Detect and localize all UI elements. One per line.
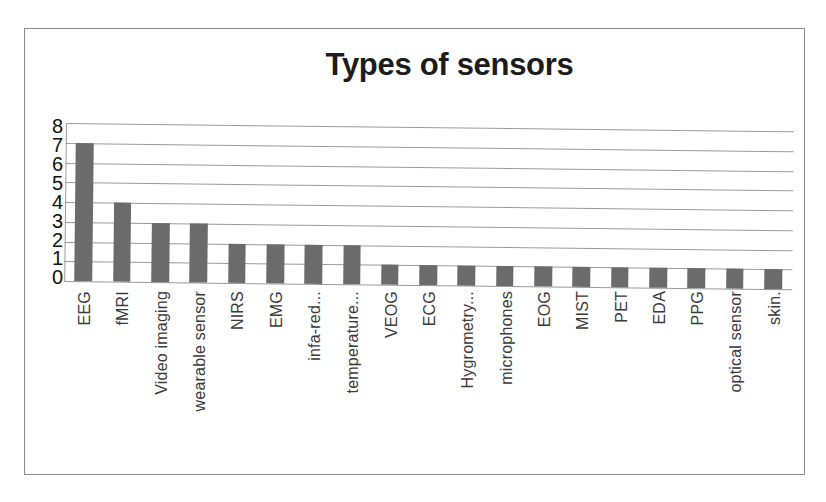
bar-slot [256,125,296,283]
bar-slot [409,127,449,285]
y-axis-tick-label: 8 [52,117,63,136]
x-axis-tick-label: infa-red... [306,291,324,361]
bar [458,266,476,286]
y-axis-tick-label: 3 [52,211,63,230]
x-axis-tick-label: PPG [689,291,707,325]
x-axis-tick-label: optical sensor [727,291,745,393]
x-label-slot: PPG [679,287,717,467]
x-axis-tick-label: EOG [536,291,554,327]
x-axis-tick-label: PET [613,291,631,323]
bar [649,268,667,288]
bar-slot [601,129,641,287]
x-axis-tick-label: microphones [498,291,516,385]
x-label-slot: fMRI [104,287,142,467]
bar-slot [639,130,679,288]
x-axis-tick-label: EMG [268,291,286,328]
x-axis-tick-label: EDA [651,291,669,325]
bar-slot [141,124,181,282]
x-axis-tick-label: skin. [766,291,784,325]
bar-slot [64,123,104,281]
x-label-slot: MIST [564,287,602,467]
bar [266,244,284,284]
x-label-slot: ECG [411,287,449,467]
bar-slot [447,127,487,285]
bar-slot [486,128,526,286]
x-label-slot: optical sensor [717,287,755,467]
bar-slot [179,124,219,282]
y-axis-tick-label: 5 [52,174,63,193]
x-axis-tick-label: MIST [574,291,592,330]
bar-slot [217,125,257,283]
bar-slot [677,130,717,288]
y-axis: 876543210 [31,117,63,287]
bar-slot [371,126,411,284]
x-label-slot: VEOG [373,287,411,467]
y-axis-tick-label: 0 [52,268,63,287]
bar-series [64,123,794,289]
y-axis-tick-label: 6 [52,155,63,174]
x-label-slot: Video imaging [143,287,181,467]
y-axis-tick-label: 2 [52,230,63,249]
bar [534,267,552,287]
x-axis-tick-label: NIRS [229,291,247,330]
bar [304,244,322,284]
x-label-slot: infa-red... [296,287,334,467]
x-label-slot: wearable sensor [181,287,219,467]
x-label-slot: microphones [487,287,525,467]
bar-slot [103,123,143,281]
bar [611,267,629,287]
x-axis-tick-label: Hygrometry... [459,291,477,388]
x-axis-tick-label: VEOG [383,291,401,338]
bar [343,245,361,285]
bar [726,269,744,289]
x-axis-tick-label: temperature... [344,291,362,393]
x-label-slot: PET [602,287,640,467]
x-axis-tick-label: fMRI [114,291,132,326]
x-axis-tick-label: ECG [421,291,439,326]
bar [228,243,246,283]
bar-slot [524,128,564,286]
bar [573,267,591,287]
bar [688,268,706,288]
x-axis-tick-label: EEG [76,291,94,325]
bar-slot [294,126,334,284]
x-axis-labels: EEGfMRIVideo imagingwearable sensorNIRSE… [66,287,794,467]
x-label-slot: EDA [641,287,679,467]
x-label-slot: temperature... [334,287,372,467]
x-label-slot: EMG [258,287,296,467]
bar [496,266,514,286]
x-label-slot: NIRS [219,287,257,467]
bar-slot [332,126,372,284]
y-axis-tick-label: 7 [52,136,63,155]
chart-page-frame: Types of sensors 876543210 EEGfMRIVideo … [24,28,805,475]
x-label-slot: EOG [526,287,564,467]
bar [381,265,399,285]
bar [151,223,169,282]
bar [189,223,207,282]
bar [75,143,94,281]
y-axis-tick-label: 4 [52,193,63,212]
bar [419,265,437,285]
bar-slot [754,131,794,289]
x-axis-tick-label: Video imaging [153,291,171,395]
x-label-slot: EEG [66,287,104,467]
x-axis-tick-label: wearable sensor [191,291,209,411]
bar-slot [562,129,602,287]
y-axis-tick-label: 1 [52,249,63,268]
plot-area [64,123,794,289]
bar-slot [715,130,755,288]
bar [113,203,132,282]
x-label-slot: Hygrometry... [449,287,487,467]
x-label-slot: skin. [756,287,794,467]
bar-chart: 876543210 EEGfMRIVideo imagingwearable s… [25,29,806,476]
